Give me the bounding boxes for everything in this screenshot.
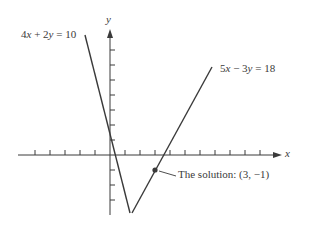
y-axis-ticks xyxy=(110,50,115,200)
solution-label: The solution: (3, −1) xyxy=(178,168,269,180)
y-axis-arrow-icon xyxy=(107,29,113,38)
x-axis-label: x xyxy=(285,147,290,159)
solution-point xyxy=(152,167,157,172)
equation-label-line-2: 5x − 3y = 18 xyxy=(220,62,275,74)
x-axis-ticks xyxy=(35,150,260,155)
y-axis-label: y xyxy=(106,13,111,25)
solution-pointer xyxy=(159,171,176,176)
x-axis-arrow-icon xyxy=(273,152,282,158)
line-4x-plus-2y-eq-10 xyxy=(85,35,130,213)
equation-label-line-1: 4x + 2y = 10 xyxy=(21,28,76,40)
line-5x-minus-3y-eq-18 xyxy=(132,67,212,213)
